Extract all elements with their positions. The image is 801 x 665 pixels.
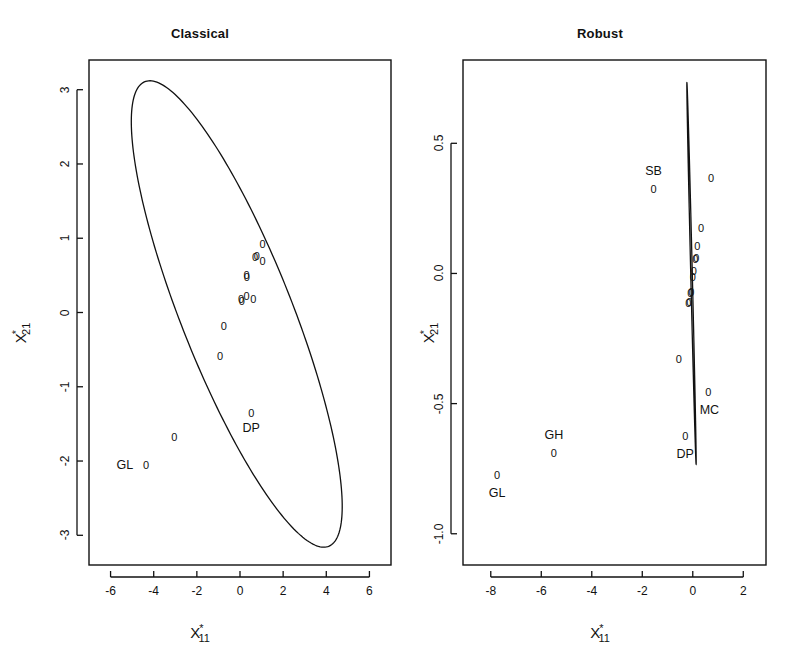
data-point-marker: 0: [250, 293, 256, 305]
x-tick-label: 0: [689, 584, 696, 598]
data-point-marker: 0: [690, 271, 696, 283]
point-annotation-label: GL: [489, 486, 506, 500]
data-point-marker: 0: [494, 469, 500, 481]
data-point-marker: 0: [143, 459, 149, 471]
data-point-marker: 0: [243, 290, 249, 302]
x-axis-title-robust: X*11: [400, 624, 800, 641]
plot-area-classical: 000000000000000: [0, 0, 400, 665]
data-point-marker: 0: [676, 353, 682, 365]
point-annotation-label: DP: [243, 421, 260, 435]
y-axis-title-sub: 21: [20, 322, 32, 334]
x-axis-title-classical: X*11: [0, 624, 400, 641]
data-point-marker: 0: [698, 222, 704, 234]
x-axis-title-sub: 11: [598, 632, 609, 644]
x-axis-title-sub: 11: [198, 632, 209, 644]
y-tick-label: -1: [58, 381, 72, 392]
figure-canvas: Classical 000000000000000 X*11 X*21 -6-4…: [0, 0, 801, 665]
plot-frame: [89, 60, 391, 565]
data-point-marker: 0: [694, 240, 700, 252]
point-annotation-label: SB: [645, 164, 662, 178]
data-point-marker: 0: [685, 297, 691, 309]
y-tick-label: 0: [58, 309, 72, 316]
point-annotation-label: GL: [117, 458, 134, 472]
panel-robust: Robust 00000000000000000 X*11 X*21 -8-6-…: [400, 0, 800, 665]
x-tick-label: -4: [586, 584, 597, 598]
y-axis-title-sub: 21: [428, 322, 440, 334]
plot-frame: [463, 60, 766, 565]
data-point-marker: 0: [693, 252, 699, 264]
y-tick-label: 1: [58, 235, 72, 242]
x-tick-label: 4: [323, 584, 330, 598]
panel-classical: Classical 000000000000000 X*11 X*21 -6-4…: [0, 0, 400, 665]
x-tick-label: -8: [485, 584, 496, 598]
x-tick-label: -2: [637, 584, 648, 598]
data-point-marker: 0: [651, 183, 657, 195]
y-tick-label: -0.5: [432, 393, 446, 414]
point-annotation-label: GH: [545, 428, 564, 442]
y-axis-title-classical: X*21: [12, 322, 29, 343]
data-point-marker: 0: [248, 407, 254, 419]
x-tick-label: -4: [148, 584, 159, 598]
data-point-marker: 0: [708, 172, 714, 184]
y-tick-label: 0.5: [432, 135, 446, 152]
data-point-marker: 0: [705, 386, 711, 398]
point-annotation-label: DP: [677, 447, 694, 461]
plot-area-robust: 00000000000000000: [400, 0, 800, 665]
x-tick-label: 6: [366, 584, 373, 598]
x-tick-label: -6: [536, 584, 547, 598]
x-tick-label: -6: [105, 584, 116, 598]
y-tick-label: 2: [58, 161, 72, 168]
data-point-marker: 0: [171, 431, 177, 443]
data-point-marker: 0: [260, 238, 266, 250]
x-tick-label: 2: [280, 584, 287, 598]
y-tick-label: -1.0: [432, 523, 446, 544]
data-point-marker: 0: [244, 271, 250, 283]
data-point-marker: 0: [551, 447, 557, 459]
point-annotation-label: MC: [700, 403, 719, 417]
data-point-marker: 0: [260, 255, 266, 267]
y-tick-label: -3: [58, 530, 72, 541]
y-tick-label: -2: [58, 456, 72, 467]
data-point-marker: 0: [217, 350, 223, 362]
x-tick-label: -2: [192, 584, 203, 598]
x-tick-label: 2: [740, 584, 747, 598]
tolerance-ellipse: [131, 81, 342, 547]
x-tick-label: 0: [237, 584, 244, 598]
y-tick-label: 0.0: [432, 265, 446, 282]
data-point-marker: 0: [221, 320, 227, 332]
y-axis-title-robust: X*21: [420, 322, 437, 343]
y-tick-label: 3: [58, 86, 72, 93]
data-point-marker: 0: [682, 430, 688, 442]
